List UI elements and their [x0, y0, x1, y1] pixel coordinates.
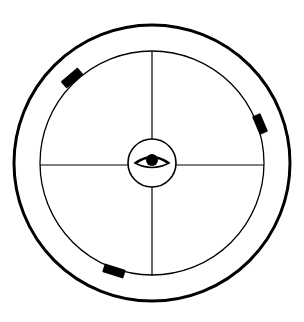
diagram-canvas [0, 0, 304, 322]
